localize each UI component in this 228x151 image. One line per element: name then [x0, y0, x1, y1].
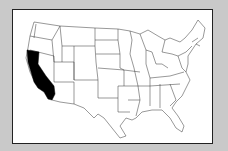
- us-outline: [26, 20, 205, 138]
- us-map: [0, 0, 228, 151]
